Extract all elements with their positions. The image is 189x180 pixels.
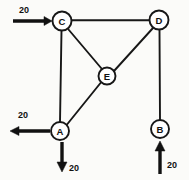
outflow-a-left-label: 20 bbox=[18, 110, 28, 120]
node-e-label: E bbox=[104, 71, 110, 82]
node-c-label: C bbox=[59, 16, 66, 27]
arrow-right-icon bbox=[44, 17, 52, 26]
edge-d-e bbox=[114, 28, 153, 71]
node-b-label: B bbox=[157, 124, 164, 135]
node-a-label: A bbox=[57, 126, 64, 137]
inflow-b-up-label: 20 bbox=[167, 160, 177, 170]
outflow-a-down-label: 20 bbox=[69, 163, 79, 173]
edge-e-a bbox=[67, 83, 101, 125]
flow-arrow-inflow-b-up: 20 bbox=[155, 141, 177, 174]
node-d[interactable]: D bbox=[150, 11, 169, 30]
node-b[interactable]: B bbox=[151, 120, 169, 138]
node-e[interactable]: E bbox=[99, 68, 116, 85]
network-flow-diagram: C D E A B 20 bbox=[0, 0, 189, 180]
graph-canvas: C D E A B 20 bbox=[0, 0, 189, 180]
edge-c-a bbox=[60, 31, 62, 123]
arrow-down-icon bbox=[57, 162, 67, 172]
node-d-label: D bbox=[156, 15, 163, 26]
flow-arrow-inflow-c: 20 bbox=[13, 5, 52, 26]
arrow-left-icon bbox=[10, 127, 19, 136]
node-c[interactable]: C bbox=[53, 12, 72, 31]
edge-c-e bbox=[69, 30, 102, 69]
arrow-up-icon bbox=[155, 141, 165, 151]
node-a[interactable]: A bbox=[51, 122, 69, 140]
flow-arrow-outflow-a-left: 20 bbox=[10, 110, 50, 136]
flow-arrow-outflow-a-down: 20 bbox=[57, 142, 79, 173]
inflow-c-label: 20 bbox=[19, 5, 29, 15]
edge-d-b bbox=[160, 30, 161, 121]
